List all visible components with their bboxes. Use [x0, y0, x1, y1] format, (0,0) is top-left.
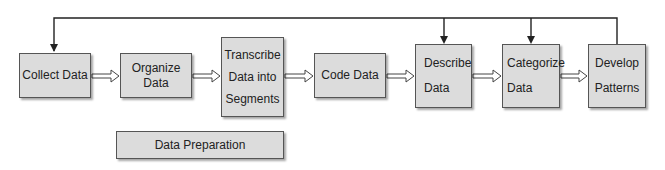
node-label: Segments [225, 92, 279, 107]
node-label: Categorize [507, 56, 565, 71]
node-describe-data: Describe Data [415, 44, 472, 108]
node-label: Data Preparation [155, 138, 246, 153]
node-transcribe-data: Transcribe Data into Segments [221, 37, 284, 117]
node-label: Code Data [321, 68, 378, 83]
node-label: Develop [595, 56, 639, 71]
node-label: Organize [132, 61, 181, 76]
node-organize-data: Organize Data [120, 53, 192, 98]
node-data-preparation: Data Preparation [116, 131, 284, 159]
node-label: Data into [228, 70, 276, 85]
node-label: Patterns [595, 81, 640, 96]
node-label: Collect Data [22, 68, 87, 83]
node-develop-patterns: Develop Patterns [588, 44, 646, 108]
node-label: Data [143, 76, 168, 91]
node-code-data: Code Data [314, 53, 386, 98]
node-label: Transcribe [224, 48, 280, 63]
node-label: Data [507, 81, 532, 96]
node-collect-data: Collect Data [19, 53, 91, 98]
node-label: Describe [424, 56, 471, 71]
node-categorize-data: Categorize Data [502, 44, 560, 108]
node-label: Data [424, 81, 449, 96]
